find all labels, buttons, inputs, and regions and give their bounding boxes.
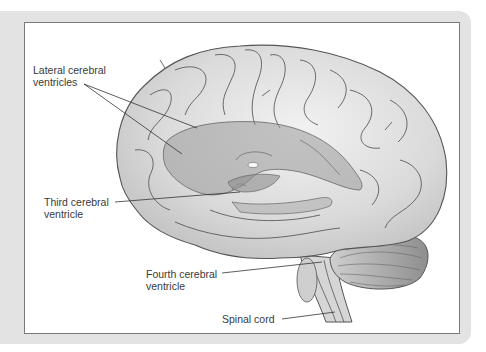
- brain-illustration: [0, 0, 486, 352]
- label-line: ventricle: [146, 280, 217, 292]
- label-line: Lateral cerebral: [33, 64, 106, 76]
- label-line: ventricles: [33, 76, 106, 88]
- label-line: ventricle: [44, 208, 109, 220]
- label-lateral-ventricles: Lateral cerebral ventricles: [33, 64, 106, 88]
- label-line: Third cerebral: [44, 196, 109, 208]
- label-fourth-ventricle: Fourth cerebral ventricle: [146, 268, 217, 292]
- label-line: Spinal cord: [222, 313, 275, 325]
- label-third-ventricle: Third cerebral ventricle: [44, 196, 109, 220]
- label-line: Fourth cerebral: [146, 268, 217, 280]
- label-spinal-cord: Spinal cord: [222, 313, 275, 325]
